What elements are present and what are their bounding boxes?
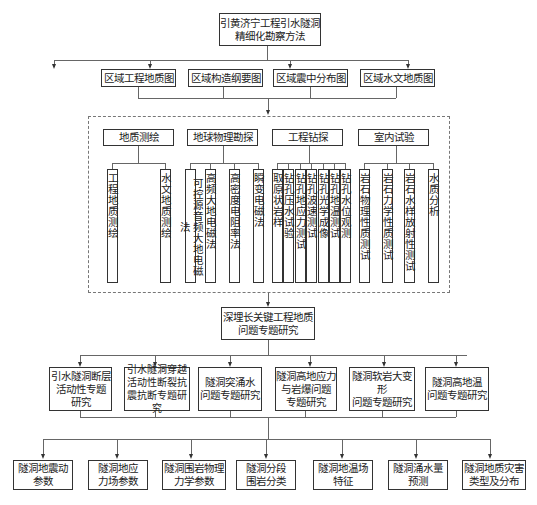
method-geophysical: 地球物理勘探	[187, 129, 258, 146]
leaf-water-level-observation: 钻孔水位观测	[340, 169, 351, 283]
topic-high-stress-rockburst: 隧洞高地应力 与岩爆问题 专题研究	[275, 367, 337, 411]
output-water-inflow-prediction: 隧洞涌水量 预测	[388, 460, 448, 490]
label: 隧洞地温场	[318, 462, 368, 475]
method-geological-mapping: 地质测绘	[103, 129, 174, 146]
connector	[138, 98, 396, 99]
label: 问题专题研究	[427, 389, 487, 402]
leaf-engineering-geological-mapping: 工程地质测绘	[107, 169, 118, 283]
leaf-transient-em: 瞬变电磁法	[253, 169, 264, 283]
label: 区域工程地质图	[104, 72, 174, 85]
label: 瞬变电磁法	[252, 173, 265, 228]
label: 专题研究	[286, 396, 326, 409]
connector	[396, 146, 397, 163]
leaf-radioactivity-test: 岩石水样放射性测试	[404, 169, 415, 283]
label: 力学参数	[174, 475, 214, 488]
topic-fault-activity: 引水隧洞断层 活动性专题 研究	[49, 367, 112, 411]
label: 隧洞高地应力	[276, 370, 336, 383]
connector	[309, 146, 310, 163]
arrow-icon	[488, 454, 492, 459]
label: 力场参数	[98, 475, 138, 488]
output-rock-mechanical-parameters: 隧洞围岩物理 力学参数	[162, 460, 226, 490]
topic-high-ground-temperature: 隧洞高地温 问题专题研究	[425, 367, 489, 411]
label: 工程钻探	[288, 131, 328, 144]
label: 室内试验	[374, 131, 414, 144]
label: 隧洞地震动	[18, 462, 68, 475]
output-rock-classification: 隧洞分段 围岩分类	[236, 460, 296, 490]
label: 区域水文地质图	[363, 72, 433, 85]
label: 类型及分布	[469, 475, 519, 488]
leaf-wave-velocity-test: 钻孔波速测试	[306, 169, 317, 283]
arrow-icon	[115, 454, 119, 459]
arrow-icon	[41, 454, 45, 459]
label: 高频大地电磁法	[204, 173, 217, 250]
topic-active-fault-crossing: 引水隧洞穿越 活动性断裂抗 震抗断专题研究	[124, 367, 190, 411]
label: 区域震中分布图	[276, 72, 346, 85]
label: 隧洞分段	[246, 462, 286, 475]
output-geohazard-types: 隧洞地质灾害 类型及分布	[462, 460, 526, 490]
leaf-csamt: 可控源音频大地电磁法	[185, 169, 196, 283]
research-node: 深埋长关键工程地质 问题专题研究	[221, 307, 315, 340]
connector	[396, 87, 397, 98]
connector	[54, 60, 408, 61]
arrow-icon	[340, 454, 344, 459]
label: 岩石水样放射性测试	[403, 173, 416, 272]
method-lab-tests: 室内试验	[358, 129, 429, 146]
label: 隧洞涌水量	[393, 462, 443, 475]
label: 隧洞地质灾害	[464, 462, 524, 475]
connector	[223, 146, 224, 163]
connector	[267, 46, 268, 60]
label: 隧洞软岩大变形	[350, 370, 414, 396]
label: 地质测绘	[119, 131, 159, 144]
connector	[268, 340, 269, 355]
label: 活动性专题	[56, 383, 106, 396]
arrow-icon	[264, 454, 268, 459]
regional-map-engineering-geology: 区域工程地质图	[101, 69, 176, 87]
method-drilling: 工程钻探	[272, 129, 343, 146]
output-seismic-parameters: 隧洞地震动 参数	[13, 460, 73, 490]
label: 隧洞地应	[98, 462, 138, 475]
label: 预测	[408, 475, 428, 488]
label: 钻孔波速测试	[305, 173, 318, 239]
label: 岩石物理性质测试	[358, 173, 371, 261]
label: 引水隧洞断层	[51, 370, 111, 383]
root-node: 引黄济宁工程引水隧洞 精细化勘察方法	[219, 13, 321, 46]
topic-soft-rock-deformation: 隧洞软岩大变形 问题专题研究	[349, 367, 415, 411]
leaf-packer-test: 钻孔压水试验	[283, 169, 294, 283]
label: 与岩爆问题	[281, 383, 331, 396]
connector	[310, 87, 311, 98]
leaf-hydrogeological-mapping: 水文地质测绘	[160, 169, 171, 283]
regional-map-epicenter: 区域震中分布图	[273, 69, 348, 87]
leaf-rock-mechanical-test: 岩石力学性质测试	[382, 169, 393, 283]
connector	[112, 163, 165, 164]
label: 可控源音频大地电磁法	[178, 173, 203, 282]
research-line-2: 问题专题研究	[238, 324, 298, 337]
root-line-1: 引黄济宁工程引水隧洞	[220, 17, 320, 30]
connector	[456, 411, 457, 417]
label: 参数	[33, 475, 53, 488]
root-line-2: 精细化勘察方法	[235, 30, 305, 43]
label: 隧洞突涌水	[205, 376, 255, 389]
label: 水文地质测绘	[159, 173, 172, 239]
arrow-icon	[414, 454, 418, 459]
regional-map-tectonic: 区域构造纲要图	[188, 69, 263, 87]
leaf-water-quality-analysis: 水质分析	[428, 169, 439, 283]
label: 水质分析	[427, 173, 440, 217]
leaf-high-density-resistivity: 高密度电阻率法	[229, 169, 240, 283]
connector	[138, 146, 139, 163]
connector	[364, 163, 433, 164]
label: 隧洞高地温	[432, 376, 482, 389]
connector	[190, 163, 258, 164]
label: 钻孔压水试验	[282, 173, 295, 239]
leaf-rock-physical-test: 岩石物理性质测试	[359, 169, 370, 283]
label: 岩石力学性质测试	[381, 173, 394, 261]
connector	[80, 355, 467, 356]
label: 引水隧洞穿越	[127, 363, 187, 376]
label: 特征	[333, 475, 353, 488]
label: 高密度电阻率法	[228, 173, 241, 250]
label: 问题专题研究	[200, 389, 260, 402]
label: 隧洞围岩物理	[164, 462, 224, 475]
label: 钻孔水位观测	[339, 173, 352, 239]
label: 震抗断专题研究	[125, 389, 189, 415]
label: 问题专题研究	[352, 396, 412, 409]
label: 围岩分类	[246, 475, 286, 488]
